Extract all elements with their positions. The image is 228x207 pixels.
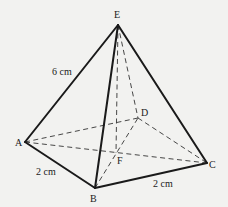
edge-DC (138, 118, 207, 163)
visible-edges (25, 25, 207, 188)
measurement-AB: 2 cm (36, 166, 56, 177)
vertex-label-D: D (141, 107, 148, 118)
vertex-label-C: C (209, 159, 216, 170)
vertex-label-B: B (90, 193, 97, 204)
measurement-BC: 2 cm (153, 178, 173, 189)
edge-EC (118, 25, 207, 163)
vertex-label-F: F (117, 155, 123, 166)
measurement-AE: 6 cm (52, 66, 72, 77)
vertex-label-E: E (114, 9, 120, 20)
vertex-label-A: A (15, 137, 23, 148)
pyramid-diagram: E A B C D F 6 cm 2 cm 2 cm (0, 0, 228, 207)
edge-BC (95, 163, 207, 188)
